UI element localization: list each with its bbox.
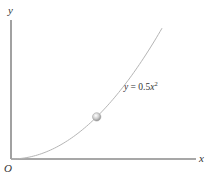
equation-eq: = 0.5	[128, 82, 150, 92]
x-axis-label: x	[198, 152, 204, 164]
parabola-diagram: y x O y = 0.5x2	[0, 0, 212, 178]
equation-exponent: 2	[154, 80, 157, 87]
y-axis-label: y	[7, 4, 13, 16]
equation-label: y = 0.5x2	[123, 80, 158, 92]
origin-label: O	[4, 162, 12, 174]
parabola-curve	[11, 28, 162, 159]
particle-marker	[93, 113, 101, 121]
